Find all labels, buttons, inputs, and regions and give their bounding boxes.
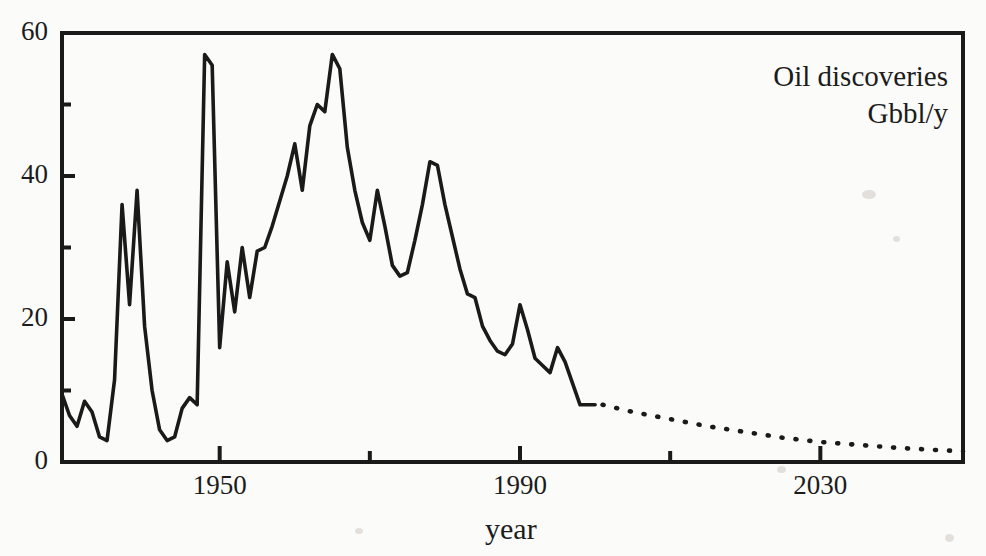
y-tick-label-40: 40: [21, 161, 48, 188]
x-tick-label-2030: 2030: [778, 472, 862, 499]
scan-speck: [893, 236, 900, 242]
x-axis-title: year: [485, 512, 537, 546]
axis-ticks: [62, 105, 820, 463]
series-historical-discoveries: [62, 54, 595, 440]
annotation-title: Oil discoveries: [773, 58, 948, 95]
y-tick-label-0: 0: [35, 447, 49, 474]
annotation-units: Gbbl/y: [773, 95, 948, 132]
scan-speck: [862, 190, 876, 199]
x-tick-label-1990: 1990: [478, 472, 562, 499]
y-tick-label-60: 60: [21, 18, 48, 45]
y-tick-label-20: 20: [21, 304, 48, 331]
scan-speck: [777, 466, 786, 473]
chart-annotation: Oil discoveries Gbbl/y: [773, 58, 948, 132]
x-tick-label-1950: 1950: [178, 472, 262, 499]
scan-speck: [355, 528, 363, 534]
chart-figure: 0204060 195019902030 year Oil discoverie…: [0, 0, 986, 556]
scan-speck: [945, 534, 954, 542]
series-projected-discoveries: [603, 405, 963, 451]
